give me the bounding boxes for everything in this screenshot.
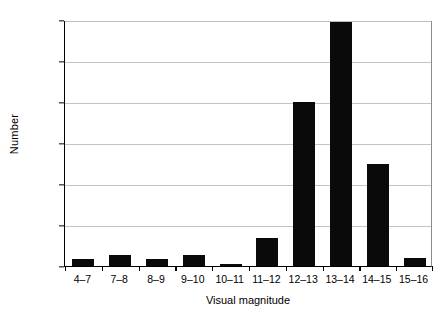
bar-slot (102, 21, 139, 266)
bar-7-8[interactable] (109, 255, 131, 266)
x-axis-tick-labels: 4–77–88–99–1010–1111–1212–1313–1414–1515… (64, 274, 432, 290)
x-tick-mark-3 (175, 266, 176, 271)
bar-slot (139, 21, 176, 266)
bar-11-12[interactable] (256, 238, 278, 266)
y-tick-mark-75 (59, 143, 64, 144)
x-tick-label-13-14: 13–14 (325, 274, 354, 285)
x-tick-mark-10 (432, 266, 433, 271)
bar-4-7[interactable] (72, 259, 94, 266)
x-tick-mark-5 (249, 266, 250, 271)
bar-series (65, 21, 431, 266)
y-tick-mark-0 (59, 266, 64, 267)
bar-8-9[interactable] (146, 259, 168, 266)
x-axis-title-text: Visual magnitude (206, 294, 290, 306)
y-tick-mark-25 (59, 225, 64, 226)
bar-15-16[interactable] (404, 258, 426, 266)
x-tick-label-10-11: 10–11 (215, 274, 243, 285)
x-tick-label-15-16: 15–16 (399, 274, 428, 285)
bar-slot (359, 21, 396, 266)
bar-10-11[interactable] (220, 264, 242, 266)
x-tick-label-11-12: 11–12 (252, 274, 280, 285)
y-tick-mark-50 (59, 184, 64, 185)
y-axis-title: Number (6, 0, 22, 267)
bar-slot (212, 21, 249, 266)
bar-slot (65, 21, 102, 266)
bar-slot (249, 21, 286, 266)
y-tick-mark-100 (59, 102, 64, 103)
x-tick-label-7-8: 7–8 (110, 274, 128, 285)
x-tick-mark-1 (102, 266, 103, 271)
bar-slot (175, 21, 212, 266)
bar-13-14[interactable] (330, 22, 352, 266)
bar-12-13[interactable] (293, 102, 315, 266)
bar-chart-figure: Number 0255075100125150 4–77–88–99–1010–… (0, 0, 448, 321)
y-tick-mark-125 (59, 61, 64, 62)
x-tick-mark-8 (359, 266, 360, 271)
y-axis-title-text: Number (8, 113, 20, 153)
x-axis-title: Visual magnitude (64, 295, 432, 306)
x-tick-mark-6 (286, 266, 287, 271)
bar-slot (286, 21, 323, 266)
x-tick-mark-7 (323, 266, 324, 271)
x-tick-label-8-9: 8–9 (147, 274, 165, 285)
x-tick-label-4-7: 4–7 (74, 274, 92, 285)
plot-area (64, 21, 432, 267)
x-tick-label-12-13: 12–13 (289, 274, 318, 285)
x-tick-mark-4 (212, 266, 213, 271)
x-tick-mark-2 (139, 266, 140, 271)
bar-slot (396, 21, 433, 266)
bar-9-10[interactable] (183, 255, 205, 266)
x-tick-label-14-15: 14–15 (362, 274, 391, 285)
bar-slot (323, 21, 360, 266)
x-tick-mark-0 (65, 266, 66, 271)
x-tick-mark-9 (396, 266, 397, 271)
y-tick-mark-150 (59, 20, 64, 21)
x-tick-label-9-10: 9–10 (181, 274, 204, 285)
bar-14-15[interactable] (367, 164, 389, 266)
